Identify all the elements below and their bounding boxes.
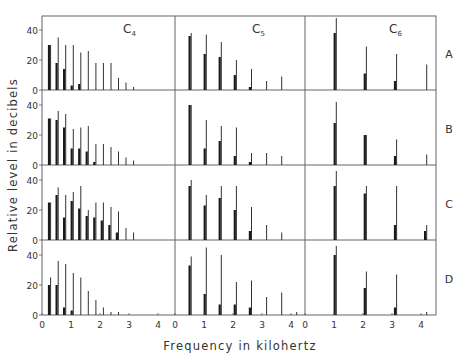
y-tick-label: 0 bbox=[32, 236, 38, 246]
x-tick-label: 3 bbox=[259, 320, 265, 330]
harmonic-bar-thin bbox=[281, 233, 282, 241]
harmonic-bar-thin bbox=[266, 225, 267, 240]
y-tick-label: 40 bbox=[27, 251, 39, 261]
harmonic-bar-thick bbox=[219, 305, 221, 316]
harmonic-bar-thin bbox=[221, 255, 222, 315]
panel-A-C4 bbox=[48, 38, 134, 91]
harmonic-bar-thick bbox=[424, 231, 426, 240]
x-tick-label: 4 bbox=[155, 320, 161, 330]
harmonic-bar-thick bbox=[249, 308, 251, 316]
harmonic-bar-thick bbox=[364, 194, 366, 241]
harmonic-bar-thin bbox=[396, 275, 397, 316]
x-tick-label: 1 bbox=[68, 320, 74, 330]
harmonic-bar-thick bbox=[71, 149, 73, 166]
harmonic-bar-thick bbox=[249, 231, 251, 240]
harmonic-bar-thin bbox=[65, 195, 66, 240]
harmonic-bar-thick bbox=[189, 105, 191, 165]
harmonic-bar-thin bbox=[281, 77, 282, 91]
harmonic-bar-thin bbox=[80, 53, 81, 91]
harmonic-bar-thin bbox=[266, 153, 267, 165]
harmonic-bar-thin bbox=[366, 186, 367, 240]
harmonic-bar-thick bbox=[219, 57, 221, 90]
harmonic-bar-thin bbox=[396, 186, 397, 240]
row-label-D: D bbox=[445, 273, 453, 286]
harmonic-bar-thin bbox=[88, 51, 89, 90]
harmonic-bar-thin bbox=[206, 248, 207, 316]
harmonic-bar-thin bbox=[126, 228, 127, 240]
harmonic-bar-thin bbox=[426, 225, 427, 240]
harmonic-bar-thin bbox=[50, 203, 51, 241]
harmonic-bar-thin bbox=[133, 233, 134, 241]
harmonic-bar-thick bbox=[71, 86, 73, 91]
harmonic-bar-thick bbox=[48, 203, 50, 241]
y-tick-label: 0 bbox=[32, 311, 38, 321]
harmonic-bar-thick bbox=[334, 123, 336, 165]
harmonic-bar-thick bbox=[219, 198, 221, 240]
harmonic-bar-thin bbox=[336, 246, 337, 315]
harmonic-bar-thick bbox=[219, 141, 221, 165]
harmonic-bar-thin bbox=[73, 129, 74, 165]
harmonic-bar-thin bbox=[118, 212, 119, 241]
harmonic-bar-thin bbox=[95, 203, 96, 241]
x-tick-label: 2 bbox=[97, 320, 103, 330]
harmonic-bar-thick bbox=[63, 218, 65, 241]
x-tick-label: 4 bbox=[288, 320, 294, 330]
harmonic-bar-thin bbox=[336, 18, 337, 90]
harmonic-bar-thin bbox=[236, 282, 237, 315]
y-tick-label: 20 bbox=[27, 206, 39, 216]
harmonic-bar-thick bbox=[56, 195, 58, 240]
panel-C-C6 bbox=[334, 171, 428, 240]
harmonic-bar-thin bbox=[95, 144, 96, 165]
y-tick-label: 20 bbox=[27, 131, 39, 141]
harmonic-bar-thick bbox=[48, 119, 50, 166]
harmonic-bar-thin bbox=[88, 210, 89, 240]
y-tick-label: 0 bbox=[32, 161, 38, 171]
harmonic-bar-thin bbox=[50, 45, 51, 90]
x-axis-ticks: 012340123401234 bbox=[39, 313, 424, 330]
row-label-B: B bbox=[445, 123, 453, 136]
harmonic-bar-thin bbox=[126, 83, 127, 91]
panel-A-C5 bbox=[189, 33, 283, 90]
harmonic-bar-thick bbox=[93, 162, 95, 165]
harmonic-bar-thick bbox=[204, 206, 206, 241]
harmonic-bar-thin bbox=[221, 186, 222, 240]
harmonic-bar-thin bbox=[118, 312, 119, 315]
harmonic-bar-thin bbox=[251, 207, 252, 240]
harmonic-bar-thick bbox=[394, 81, 396, 90]
panel-D-C6 bbox=[334, 246, 428, 315]
harmonic-bar-thin bbox=[191, 33, 192, 90]
harmonic-bar-thick bbox=[204, 149, 206, 166]
harmonic-bar-thin bbox=[118, 78, 119, 90]
harmonic-bar-thin bbox=[103, 308, 104, 316]
harmonic-bar-thin bbox=[65, 264, 66, 315]
column-labels: C4C5C6 bbox=[123, 22, 402, 38]
harmonic-bar-thin bbox=[206, 120, 207, 165]
harmonic-bar-thin bbox=[50, 278, 51, 316]
harmonic-bar-thick bbox=[78, 209, 80, 241]
harmonic-bar-thick bbox=[101, 221, 103, 241]
row-label-A: A bbox=[445, 48, 453, 61]
harmonic-bar-thick bbox=[86, 152, 88, 166]
harmonic-bar-thin bbox=[236, 128, 237, 166]
harmonic-bar-thick bbox=[394, 308, 396, 316]
y-tick-label: 0 bbox=[32, 86, 38, 96]
harmonic-bar-thick bbox=[78, 84, 80, 90]
harmonic-bar-thin bbox=[95, 300, 96, 315]
harmonic-bar-thin bbox=[80, 186, 81, 240]
harmonic-bar-thin bbox=[191, 105, 192, 165]
harmonic-bar-thick bbox=[394, 156, 396, 165]
harmonic-bar-thick bbox=[78, 149, 80, 166]
harmonic-bar-thick bbox=[364, 288, 366, 315]
harmonic-bar-thin bbox=[126, 158, 127, 166]
y-tick-label: 20 bbox=[27, 281, 39, 291]
harmonic-bar-thin bbox=[88, 291, 89, 315]
y-tick-label: 40 bbox=[27, 101, 39, 111]
x-tick-label: 0 bbox=[39, 320, 45, 330]
harmonic-bar-thick bbox=[71, 201, 73, 240]
harmonic-bar-thick bbox=[204, 54, 206, 90]
harmonic-bar-thick bbox=[63, 308, 65, 316]
harmonic-bar-thin bbox=[366, 47, 367, 91]
x-tick-label: 3 bbox=[126, 320, 132, 330]
harmonic-bar-thin bbox=[111, 147, 112, 165]
harmonic-bar-thin bbox=[236, 60, 237, 90]
